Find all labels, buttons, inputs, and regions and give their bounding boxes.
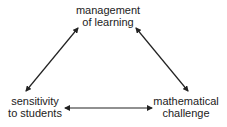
node-left-line1: sensitivity bbox=[0, 95, 80, 107]
node-right-line2: challenge bbox=[141, 107, 227, 119]
arrow-top-right bbox=[136, 28, 188, 91]
node-top-line2: of learning bbox=[58, 16, 158, 28]
node-right-line1: mathematical bbox=[141, 95, 227, 107]
relationship-diagram: management of learning sensitivity to st… bbox=[0, 0, 227, 127]
node-left-line2: to students bbox=[0, 107, 80, 119]
arrow-left-top bbox=[26, 28, 78, 91]
node-management-of-learning: management of learning bbox=[58, 4, 158, 28]
node-mathematical-challenge: mathematical challenge bbox=[141, 95, 227, 119]
node-sensitivity-to-students: sensitivity to students bbox=[0, 95, 80, 119]
node-top-line1: management bbox=[58, 4, 158, 16]
